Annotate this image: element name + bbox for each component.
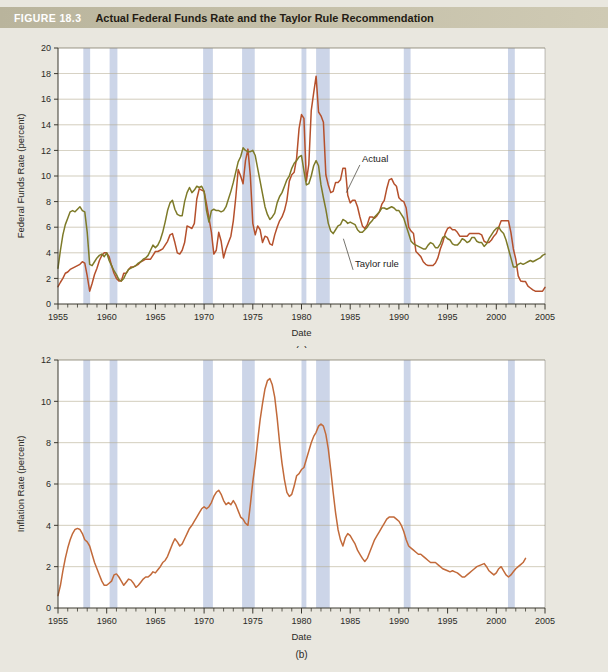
annotation-label: Taylor rule	[355, 258, 399, 269]
y-tick-label: 0	[46, 603, 51, 613]
plot-area-b: 0246810121955196019651970197519801985199…	[0, 348, 608, 672]
x-tick-label: 1980	[291, 616, 311, 626]
y-tick-label: 4	[46, 521, 51, 531]
x-axis-minor-ticks	[58, 304, 545, 310]
y-tick-label: 6	[46, 222, 51, 232]
x-tick-label: 1955	[48, 312, 68, 322]
x-axis-minor-ticks	[58, 608, 545, 614]
x-tick-label: 1995	[438, 312, 458, 322]
x-tick-label: 1975	[243, 616, 263, 626]
chart-svg-b: 0246810121955196019651970197519801985199…	[0, 348, 608, 672]
panel-letter: (b)	[295, 649, 307, 660]
y-tick-label: 8	[46, 438, 51, 448]
y-axis-ticks: 02468101214161820	[41, 43, 58, 309]
plot-area-a: 0246810121416182019551960196519701975198…	[0, 36, 608, 348]
x-axis-labels: 1955196019651970197519801985199019952000…	[48, 312, 555, 322]
chart-panel-b: 0246810121955196019651970197519801985199…	[0, 348, 608, 672]
y-axis-title: Federal Funds Rate (percent)	[15, 114, 26, 239]
x-tick-label: 2000	[486, 312, 506, 322]
x-axis-title: Date	[291, 327, 311, 338]
x-tick-label: 1985	[340, 616, 360, 626]
y-tick-label: 2	[46, 562, 51, 572]
x-tick-label: 1970	[194, 616, 214, 626]
x-tick-label: 1975	[243, 312, 263, 322]
x-tick-label: 2005	[535, 616, 555, 626]
y-tick-label: 8	[46, 197, 51, 207]
y-tick-label: 12	[41, 355, 51, 365]
y-tick-label: 2	[46, 274, 51, 284]
y-tick-label: 10	[41, 397, 51, 407]
y-tick-label: 20	[41, 43, 51, 53]
x-tick-label: 2005	[535, 312, 555, 322]
y-axis-ticks: 024681012	[41, 355, 58, 613]
figure-number: FIGURE 18.3	[14, 12, 81, 24]
x-axis-title: Date	[291, 631, 311, 642]
x-tick-label: 1965	[145, 312, 165, 322]
figure-title: Actual Federal Funds Rate and the Taylor…	[95, 12, 433, 24]
figure-header: FIGURE 18.3 Actual Federal Funds Rate an…	[0, 7, 608, 28]
y-tick-label: 10	[41, 171, 51, 181]
y-tick-label: 18	[41, 69, 51, 79]
x-tick-label: 1995	[438, 616, 458, 626]
y-tick-label: 6	[46, 479, 51, 489]
x-tick-label: 1960	[97, 312, 117, 322]
y-tick-label: 14	[41, 120, 51, 130]
y-axis-title: Inflation Rate (percent)	[15, 436, 26, 533]
x-tick-label: 1970	[194, 312, 214, 322]
annotation-label: Actual	[362, 153, 388, 164]
x-tick-label: 1955	[48, 616, 68, 626]
x-tick-label: 1980	[291, 312, 311, 322]
x-tick-label: 1965	[145, 616, 165, 626]
x-tick-label: 1960	[97, 616, 117, 626]
x-tick-label: 2000	[486, 616, 506, 626]
y-tick-label: 4	[46, 248, 51, 258]
y-tick-label: 16	[41, 94, 51, 104]
y-tick-label: 12	[41, 146, 51, 156]
x-tick-label: 1985	[340, 312, 360, 322]
y-tick-label: 0	[46, 299, 51, 309]
x-axis-labels: 1955196019651970197519801985199019952000…	[48, 616, 555, 626]
chart-panel-a: 0246810121416182019551960196519701975198…	[0, 36, 608, 348]
x-tick-label: 1990	[389, 312, 409, 322]
x-tick-label: 1990	[389, 616, 409, 626]
chart-svg-a: 0246810121416182019551960196519701975198…	[0, 36, 608, 348]
